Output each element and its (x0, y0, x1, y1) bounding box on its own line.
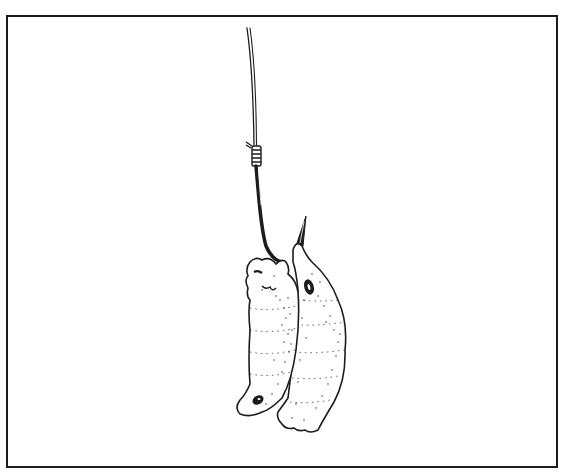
whipping-knot (246, 142, 261, 166)
fishing-line (247, 28, 257, 145)
maggots-on-hook-illustration (0, 0, 570, 475)
illustration-canvas (0, 0, 570, 475)
